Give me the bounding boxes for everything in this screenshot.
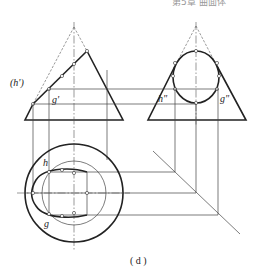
label-g-prime: g' bbox=[52, 94, 60, 105]
label-h: h bbox=[43, 157, 48, 168]
cutting-plane-line bbox=[33, 51, 87, 104]
label-h-double-prime: h" bbox=[158, 93, 168, 104]
miter-line bbox=[153, 151, 240, 234]
label-g: g bbox=[44, 218, 49, 229]
side-view: h" g" bbox=[148, 22, 246, 125]
cone-section-drawing: 第5章 曲面体 (h') g' h" g" bbox=[0, 0, 261, 279]
chapter-header: 第5章 曲面体 bbox=[172, 0, 226, 7]
label-g-double-prime: g" bbox=[220, 93, 230, 104]
front-view: (h') g' bbox=[10, 22, 123, 250]
label-h-prime: (h') bbox=[10, 77, 24, 89]
top-view: h g bbox=[17, 144, 130, 242]
figure-caption: ( d ) bbox=[130, 255, 147, 267]
